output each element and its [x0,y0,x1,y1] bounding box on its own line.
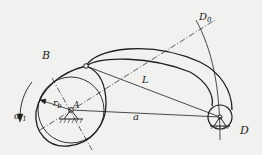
label-cam-pivot: A [72,100,80,110]
label-center-distance: a [133,111,139,122]
label-follower-pivot: D [239,124,249,137]
follower-arm-outer [86,49,232,110]
contact-point [84,64,89,69]
label-follower-length: L [141,74,149,85]
label-cam-body: B [41,49,50,62]
cam-axis-line [52,78,92,150]
base-radius-arrowhead [40,99,46,104]
initial-position-line [40,20,215,130]
follower-arm-inner [86,59,212,106]
cam-profile [36,66,106,146]
center-distance-line [71,110,220,117]
label-initial-position: D0 [198,11,212,24]
pivot-a-hatching [60,119,82,123]
cam-mechanism-diagram: B A rb ω1 L a D D0 [0,0,262,155]
label-base-radius: rb [53,98,62,110]
